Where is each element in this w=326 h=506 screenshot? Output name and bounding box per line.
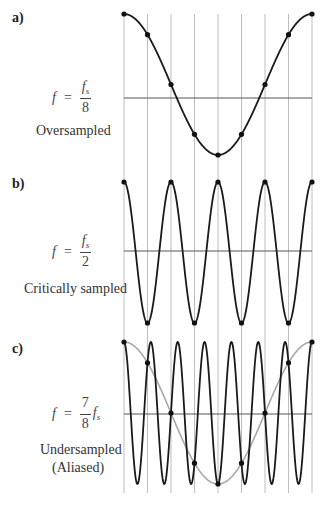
sample-dot bbox=[192, 320, 197, 325]
sample-gridlines bbox=[124, 14, 312, 493]
sample-dot bbox=[215, 179, 220, 184]
sample-dot bbox=[215, 152, 220, 157]
formula-equals: = bbox=[64, 90, 72, 106]
sample-dot bbox=[168, 179, 173, 184]
sample-dot bbox=[286, 32, 291, 37]
fraction-numerator: fs bbox=[80, 234, 91, 253]
formula-lhs: f bbox=[52, 406, 56, 422]
sample-dot bbox=[239, 320, 244, 325]
sample-dot bbox=[309, 179, 314, 184]
sample-dot bbox=[121, 179, 126, 184]
caption-oversampled: Oversampled bbox=[36, 123, 111, 139]
sample-dot bbox=[145, 360, 150, 365]
fraction-numerator: fs bbox=[80, 80, 91, 99]
formula-lhs: f bbox=[52, 90, 56, 106]
sample-dot bbox=[145, 320, 150, 325]
formula-suffix: fs bbox=[93, 405, 100, 422]
sample-dot bbox=[168, 410, 173, 415]
sample-dot bbox=[192, 461, 197, 466]
caption-undersampled: Undersampled bbox=[40, 442, 122, 458]
fraction-denominator: 8 bbox=[82, 99, 89, 115]
sample-dot bbox=[262, 179, 267, 184]
sample-dot bbox=[121, 339, 126, 344]
fraction: fs 2 bbox=[80, 234, 91, 269]
sample-dot bbox=[239, 461, 244, 466]
sample-dot bbox=[309, 11, 314, 16]
formula-c: f = 7 8 fs bbox=[52, 396, 100, 431]
fraction-denominator: 2 bbox=[82, 253, 89, 269]
sample-dot bbox=[286, 360, 291, 365]
formula-a: f = fs 8 bbox=[52, 80, 93, 115]
formula-equals: = bbox=[64, 406, 72, 422]
fraction-denominator: 8 bbox=[82, 415, 89, 431]
sample-dot bbox=[215, 481, 220, 486]
panel-label-b: b) bbox=[12, 176, 24, 192]
formula-equals: = bbox=[64, 244, 72, 260]
sample-dot bbox=[309, 339, 314, 344]
sample-dot bbox=[286, 320, 291, 325]
sample-dot bbox=[262, 82, 267, 87]
sample-dot bbox=[121, 11, 126, 16]
sample-dot bbox=[192, 132, 197, 137]
panel-label-c: c) bbox=[12, 341, 23, 357]
sample-dot bbox=[239, 132, 244, 137]
sampling-diagram bbox=[0, 0, 326, 506]
fraction: fs 8 bbox=[80, 80, 91, 115]
fraction: 7 8 bbox=[80, 396, 91, 431]
sample-dot bbox=[168, 82, 173, 87]
sample-dot bbox=[262, 410, 267, 415]
formula-b: f = fs 2 bbox=[52, 234, 93, 269]
caption-critically-sampled: Critically sampled bbox=[24, 281, 127, 297]
formula-lhs: f bbox=[52, 244, 56, 260]
fraction-numerator: 7 bbox=[80, 396, 91, 415]
panel-label-a: a) bbox=[12, 10, 24, 26]
sample-dot bbox=[145, 32, 150, 37]
caption-aliased: (Aliased) bbox=[52, 460, 104, 476]
